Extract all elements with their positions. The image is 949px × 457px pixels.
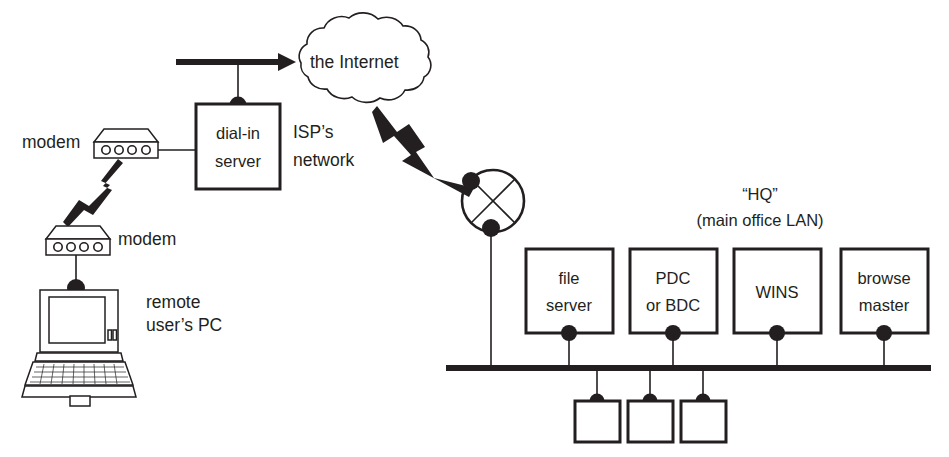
server-browse-master: browse master: [841, 249, 928, 368]
file-server-label-line1: file: [558, 269, 579, 287]
server-file-server: file server: [526, 249, 613, 368]
hq-label-line2: (main office LAN): [696, 211, 823, 229]
browse-master-label-line2: master: [859, 296, 910, 314]
server-wins: WINS: [734, 249, 821, 368]
laptop-indicator-2: [113, 330, 117, 340]
pdc-or-bdc-label-line2: or BDC: [646, 296, 700, 314]
modem-remote-body: [46, 239, 110, 255]
remote-pc-label-line1: remote: [146, 292, 200, 312]
hq-caption-group: “HQ” (main office LAN): [696, 185, 823, 229]
laptop-indicator-1: [108, 330, 112, 340]
laptop-latch: [70, 396, 90, 406]
workstation-3-box: [681, 401, 726, 442]
workstation-3: [681, 368, 726, 442]
pdc-or-bdc-box: [630, 249, 717, 333]
dial-in-server-box: [196, 104, 280, 189]
browse-master-label-line1: browse: [857, 269, 910, 287]
modem-isp-group: modem: [22, 129, 196, 158]
workstation-1: [575, 368, 620, 442]
wan-lightning-bolt-icon: [372, 106, 474, 197]
internet-cloud-group: the Internet: [299, 13, 431, 103]
laptop-screen: [49, 297, 105, 343]
dial-in-server-label-line2: server: [215, 152, 261, 170]
hq-label-line1: “HQ”: [742, 185, 778, 203]
internet-label: the Internet: [310, 52, 399, 72]
modem-isp-top-face: [94, 129, 158, 142]
router-group: [462, 170, 524, 368]
pdc-or-bdc-label-line1: PDC: [656, 269, 691, 287]
browse-master-box: [841, 249, 928, 333]
modem-remote-top-face: [46, 226, 110, 239]
file-server-label-line2: server: [546, 296, 592, 314]
laptop-hinge: [35, 353, 123, 361]
remote-pc-label-line2: user’s PC: [146, 315, 222, 335]
lan-servers-group: file server PDC or BDC WINS browse: [526, 249, 928, 368]
isp-backbone-arrowhead: [278, 53, 296, 71]
lan-workstations-group: [575, 368, 726, 442]
diagram-canvas: the Internet modem: [0, 0, 949, 457]
wins-label-line1: WINS: [755, 283, 798, 301]
workstation-2-box: [628, 401, 673, 442]
router-wan-connector: [462, 172, 480, 190]
workstation-1-box: [575, 401, 620, 442]
isp-network-label-line1: ISP’s: [293, 122, 334, 142]
file-server-box: [526, 249, 613, 333]
dial-in-server-group: dial-in server: [196, 104, 280, 189]
workstation-2: [628, 368, 673, 442]
modem-remote-group: modem: [46, 226, 176, 297]
server-pdc-or-bdc: PDC or BDC: [630, 249, 717, 368]
isp-network-caption-group: ISP’s network: [293, 122, 355, 170]
dialup-lightning-link-group: [63, 159, 123, 227]
modem-remote-label: modem: [118, 229, 176, 249]
wan-lightning-link-group: [372, 106, 474, 197]
modem-isp-body: [94, 142, 158, 158]
network-diagram: the Internet modem: [0, 0, 949, 457]
modem-isp-label: modem: [22, 132, 80, 152]
dialup-lightning-bolt-icon: [63, 159, 123, 227]
isp-network-label-line2: network: [293, 150, 355, 170]
dial-in-server-label-line1: dial-in: [216, 124, 260, 142]
remote-laptop-group: remote user’s PC: [22, 290, 222, 406]
